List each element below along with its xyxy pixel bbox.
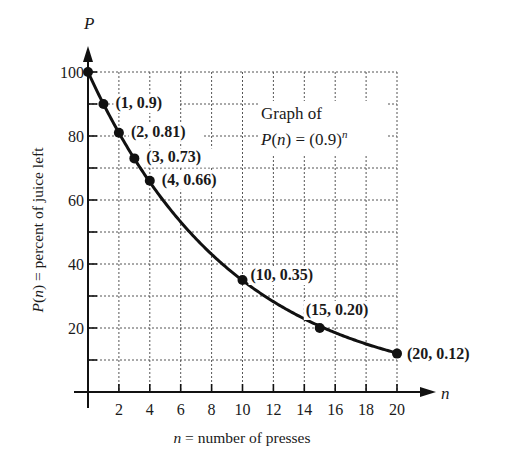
annotation-line1: Graph of [261, 104, 322, 123]
data-point [145, 176, 155, 186]
x-tick-label: 14 [296, 401, 312, 418]
point-label: (2, 0.81) [131, 123, 186, 141]
data-point [83, 67, 93, 77]
y-axis-title: P(n) = percent of juice left [29, 147, 47, 314]
point-label: (15, 0.20) [306, 301, 369, 319]
x-tick-label: 18 [358, 401, 374, 418]
point-label: (3, 0.73) [146, 148, 201, 166]
y-tick-label: 20 [68, 320, 84, 337]
point-label: (20, 0.12) [407, 345, 470, 363]
data-point [129, 153, 139, 163]
point-label: (10, 0.35) [251, 266, 314, 284]
y-tick-label: 100 [60, 64, 84, 81]
data-point [315, 323, 325, 333]
x-axis-variable: n [441, 384, 450, 403]
y-tick-label: 80 [68, 128, 84, 145]
x-tick-label: 4 [146, 401, 154, 418]
x-tick-label: 20 [389, 401, 405, 418]
point-label: (1, 0.9) [115, 94, 162, 112]
y-tick-label: 40 [68, 256, 84, 273]
point-label: (4, 0.66) [162, 171, 217, 189]
data-point [114, 128, 124, 138]
y-axis-variable: P [83, 14, 94, 33]
x-tick-label: 10 [235, 401, 251, 418]
x-axis-title: n = number of presses [173, 429, 310, 446]
annotation-line2: P(n) = (0.9)n [260, 128, 348, 149]
x-tick-label: 12 [265, 401, 281, 418]
x-tick-label: 16 [327, 401, 343, 418]
x-axis-arrow-icon [420, 387, 436, 397]
y-axis-arrow-icon [83, 46, 93, 62]
x-tick-label: 6 [177, 401, 185, 418]
data-point [238, 275, 248, 285]
y-tick-label: 60 [68, 192, 84, 209]
data-point [392, 349, 402, 359]
data-point [98, 99, 108, 109]
chart-svg: (1, 0.9)(2, 0.81)(3, 0.73)(4, 0.66)(10, … [0, 0, 519, 468]
x-tick-label: 8 [208, 401, 216, 418]
annotation-exponent: n [342, 128, 348, 140]
annotation-P: P [260, 130, 271, 149]
x-tick-label: 2 [115, 401, 123, 418]
